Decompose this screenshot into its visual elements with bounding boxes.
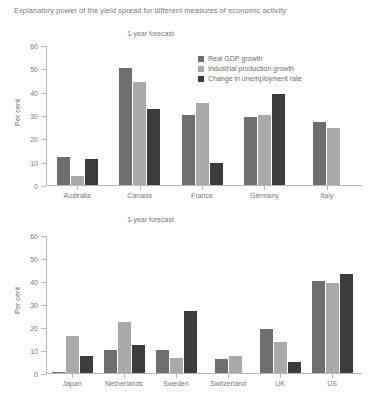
x-axis-tick [77, 185, 78, 190]
x-axis-category-label: UK [254, 380, 306, 387]
y-axis-tick [41, 93, 46, 94]
bar [184, 311, 197, 373]
bar [288, 362, 301, 374]
y-axis-tick-label: 30 [30, 113, 38, 120]
y-axis-tick [41, 259, 46, 260]
bar [156, 350, 169, 373]
bar [104, 350, 117, 373]
y-axis-tick-label: 60 [30, 43, 38, 50]
bar [119, 68, 132, 185]
y-axis-tick [41, 116, 46, 117]
chart-subtitle-top: 1-year forecast [0, 30, 339, 37]
bar-group: France [171, 46, 233, 185]
y-axis-tick [41, 328, 46, 329]
bar [57, 157, 70, 185]
y-axis-tick-label: 40 [30, 279, 38, 286]
bar [340, 274, 353, 373]
chart-subtitle-bottom: 1-year forecast [0, 216, 339, 223]
y-axis-tick [41, 163, 46, 164]
y-axis-tick [41, 282, 46, 283]
x-axis-tick [72, 373, 73, 378]
y-axis-tick-label: 10 [30, 159, 38, 166]
bar [274, 342, 287, 373]
plot-area-bottom: Per cent JapanNetherlandsSwedenSwitzerla… [46, 236, 358, 374]
y-axis-tick-label: 40 [30, 89, 38, 96]
bar-group: US [306, 236, 358, 373]
bar [229, 356, 242, 373]
x-axis-tick [332, 373, 333, 378]
chart-panel-bottom: 1-year forecast Per cent JapanNetherland… [0, 212, 377, 404]
x-axis-tick [280, 373, 281, 378]
y-axis-tick-label: 20 [30, 136, 38, 143]
bar [326, 283, 339, 373]
x-axis-category-label: Switzerland [202, 380, 254, 387]
bar-group: Canada [108, 46, 170, 185]
x-axis-category-label: Netherlands [98, 380, 150, 387]
y-axis-tick-label: 20 [30, 325, 38, 332]
y-axis-tick-label: 60 [30, 233, 38, 240]
bar [327, 128, 340, 185]
bar [118, 322, 131, 373]
x-axis-tick [176, 373, 177, 378]
bar [313, 122, 326, 185]
bar-group: Sweden [150, 236, 202, 373]
y-axis-tick-label: 30 [30, 302, 38, 309]
bar-groups-bottom: JapanNetherlandsSwedenSwitzerlandUKUS [46, 236, 358, 373]
y-axis-tick [41, 186, 46, 187]
bar [244, 117, 257, 185]
bar [133, 82, 146, 185]
x-axis-bottom [46, 373, 362, 374]
x-axis-tick [124, 373, 125, 378]
y-axis-tick [41, 139, 46, 140]
chart-page: Explanatory power of the yield spread fo… [0, 0, 377, 404]
bar [272, 94, 285, 185]
bar [80, 356, 93, 373]
y-axis-tick-label: 50 [30, 256, 38, 263]
x-axis-category-label: Germany [233, 192, 295, 199]
bar [215, 359, 228, 373]
chart-panel-top: 1-year forecast Real GDP growth Industri… [0, 28, 377, 210]
y-axis-tick-label: 0 [34, 371, 38, 378]
page-title: Explanatory power of the yield spread fo… [14, 6, 286, 15]
y-axis-tick [41, 46, 46, 47]
bar [170, 358, 183, 373]
bar [210, 163, 223, 185]
bar-group: Netherlands [98, 236, 150, 373]
x-axis-category-label: Australia [46, 192, 108, 199]
x-axis-category-label: Japan [46, 380, 98, 387]
bar [132, 345, 145, 373]
bar-group: Italy [296, 46, 358, 185]
x-axis-tick [327, 185, 328, 190]
bar-group: UK [254, 236, 306, 373]
y-axis-tick-label: 0 [34, 183, 38, 190]
x-axis-top [46, 185, 362, 186]
x-axis-category-label: US [306, 380, 358, 387]
y-axis-tick-label: 10 [30, 348, 38, 355]
x-axis-tick [202, 185, 203, 190]
bar [52, 372, 65, 373]
bar [260, 329, 273, 373]
x-axis-tick [140, 185, 141, 190]
bar [196, 103, 209, 185]
y-axis-tick [41, 305, 46, 306]
bar [85, 159, 98, 185]
x-axis-tick [228, 373, 229, 378]
y-axis-tick [41, 351, 46, 352]
x-axis-category-label: Italy [296, 192, 358, 199]
bar-group: Germany [233, 46, 295, 185]
x-axis-category-label: France [171, 192, 233, 199]
bar [258, 115, 271, 185]
bar-group: Switzerland [202, 236, 254, 373]
bar [71, 176, 84, 185]
bar [147, 109, 160, 185]
y-axis-tick [41, 236, 46, 237]
bar-groups-top: AustraliaCanadaFranceGermanyItaly [46, 46, 358, 185]
x-axis-category-label: Sweden [150, 380, 202, 387]
y-axis-tick [41, 374, 46, 375]
x-axis-category-label: Canada [108, 192, 170, 199]
bar-group: Japan [46, 236, 98, 373]
y-axis-title-bottom: Per cent [13, 287, 22, 314]
x-axis-tick [264, 185, 265, 190]
bar [182, 115, 195, 185]
bar [66, 336, 79, 373]
